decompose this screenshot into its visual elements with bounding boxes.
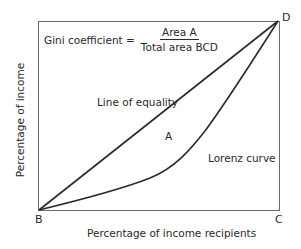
- corner-d-label: D: [282, 12, 290, 24]
- gini-diagram: Gini coefficient = Area A Total area BCD…: [0, 0, 301, 249]
- formula-numerator: Area A: [160, 26, 199, 40]
- x-axis-label: Percentage of income recipients: [87, 227, 256, 239]
- corner-c-label: C: [275, 214, 283, 226]
- formula-lhs: Gini coefficient =: [44, 34, 135, 46]
- area-a-label: A: [165, 130, 172, 142]
- lorenz-curve-label: Lorenz curve: [208, 152, 276, 164]
- formula-denominator: Total area BCD: [139, 40, 220, 53]
- gini-formula: Gini coefficient = Area A Total area BCD: [44, 26, 220, 53]
- y-axis-label: Percentage of income: [14, 63, 26, 177]
- formula-fraction: Area A Total area BCD: [139, 26, 220, 53]
- corner-b-label: B: [35, 214, 43, 226]
- line-of-equality-label: Line of equality: [97, 96, 178, 108]
